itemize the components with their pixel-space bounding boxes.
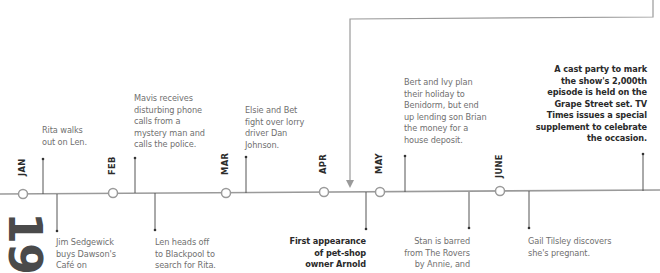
event-jim-sedgewick-cafe: Jim Sedgewick buys Dawson's Café on [56,237,116,272]
month-label-may: MAY [374,153,384,174]
month-marker-feb [109,189,118,198]
event-rita-walks-out: Rita walks out on Len. [42,125,87,148]
event-mavis-phone-calls: Mavis receives disturbing phone calls fr… [134,93,205,151]
month-label-june: JUNE [494,154,504,178]
month-marker-jan [19,190,28,199]
month-label-jan: JAN [17,158,27,176]
arrowhead-icon [346,180,354,188]
month-label-mar: MAR [220,153,230,175]
event-cast-party-2000th-episode: A cast party to mark the show's 2,000th … [530,64,647,145]
event-len-blackpool: Len heads off to Blackpool to search for… [155,237,216,272]
timeline-axis [0,190,660,194]
year-label: 1980 [0,212,52,273]
event-gail-pregnant: Gail Tilsley discovers she's pregnant. [528,236,611,259]
month-marker-may [376,188,385,197]
month-marker-june [496,187,505,196]
event-bert-ivy-holiday: Bert and Ivy plan their holiday to Benid… [404,77,486,146]
month-label-apr: APR [318,154,328,174]
event-elsie-bet-fight: Elsie and Bet fight over lorry driver Da… [245,105,304,151]
month-label-feb: FEB [107,156,117,175]
event-stan-barred: Stan is barred from The Rovers by Annie,… [390,236,470,271]
month-marker-apr [320,188,329,197]
event-arnold-first-appearance: First appearance of pet-shop owner Arnol… [262,236,366,271]
month-marker-mar [222,189,231,198]
